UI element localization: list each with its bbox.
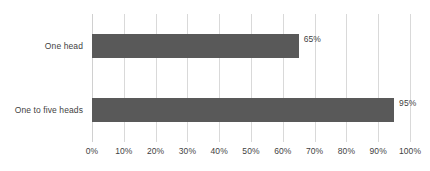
x-tick-label: 70% xyxy=(306,146,323,157)
bar-chart: One head One to five heads 65% 95% 0%10%… xyxy=(0,0,430,171)
category-axis: One head One to five heads xyxy=(0,14,86,142)
bars-layer: 65% 95% xyxy=(92,14,410,142)
x-tick-label: 90% xyxy=(370,146,387,157)
x-tick-label: 100% xyxy=(399,146,421,157)
x-tick-label: 60% xyxy=(274,146,291,157)
plot-area: 65% 95% xyxy=(92,14,410,142)
x-tick-label: 30% xyxy=(179,146,196,157)
x-axis: 0%10%20%30%40%50%60%70%80%90%100% xyxy=(92,146,410,160)
x-tick-label: 10% xyxy=(115,146,132,157)
bar-value-label: 65% xyxy=(304,34,321,44)
x-tick-label: 80% xyxy=(338,146,355,157)
category-label-row: One head xyxy=(0,14,86,78)
bar-value-label: 95% xyxy=(399,98,416,108)
bar-row: 95% xyxy=(92,78,410,142)
x-tick-label: 40% xyxy=(211,146,228,157)
category-label-one-head: One head xyxy=(45,41,86,51)
category-label-row: One to five heads xyxy=(0,78,86,142)
bar-one-head[interactable]: 65% xyxy=(92,34,299,58)
gridline-100pct xyxy=(410,14,411,142)
bar-one-to-five-heads[interactable]: 95% xyxy=(92,98,394,122)
x-tick-label: 20% xyxy=(147,146,164,157)
category-label-one-to-five-heads: One to five heads xyxy=(15,105,86,115)
bar-row: 65% xyxy=(92,14,410,78)
x-tick-label: 50% xyxy=(242,146,259,157)
x-tick-label: 0% xyxy=(86,146,99,157)
